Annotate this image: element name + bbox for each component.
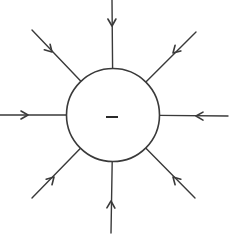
field-line-top-left bbox=[32, 30, 81, 81]
field-line-bottom bbox=[111, 162, 112, 234]
field-line-bottom-left bbox=[32, 148, 81, 198]
field-diagram: Electric field lines of a negative point… bbox=[0, 0, 230, 238]
field-line-bottom-right bbox=[146, 148, 195, 198]
field-line-right bbox=[160, 115, 229, 116]
arrowhead-icon-bottom-right bbox=[173, 177, 181, 185]
charge-circle bbox=[67, 69, 160, 162]
field-line-top-right bbox=[146, 32, 196, 82]
arrowhead-icon-bottom-left bbox=[46, 177, 54, 185]
arrowhead-icon-top-left bbox=[44, 44, 52, 52]
field-line-top bbox=[112, 0, 113, 69]
